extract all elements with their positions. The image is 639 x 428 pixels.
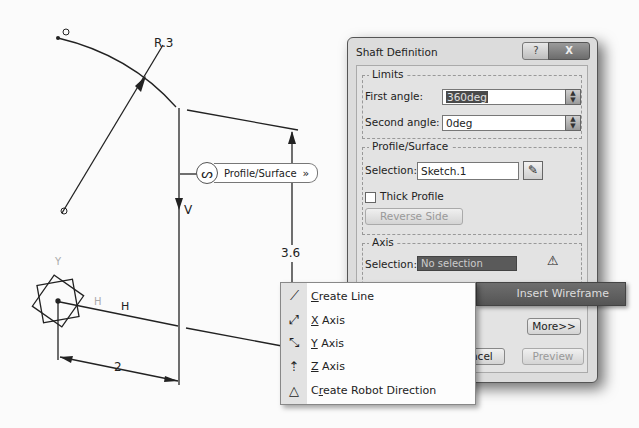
first-angle-spinner[interactable]: ▲▼ <box>565 89 581 105</box>
profile-surface-group: Profile/Surface Selection: Sketch.1 ✎ Th… <box>362 147 582 235</box>
second-angle-input[interactable]: 0deg <box>442 115 566 131</box>
insert-wireframe-toolbar[interactable]: Insert Wireframe <box>476 282 626 306</box>
second-angle-label: Second angle: <box>365 116 440 128</box>
preview-button[interactable]: Preview <box>522 348 584 365</box>
first-angle-label: First angle: <box>365 90 423 102</box>
axis-selection-input[interactable]: No selection <box>417 256 517 271</box>
profile-group-title: Profile/Surface <box>369 140 451 152</box>
menu-item-create-robot-direction[interactable]: △ Create Robot Direction <box>281 379 475 401</box>
reverse-side-button[interactable]: Reverse Side <box>365 208 463 225</box>
second-angle-spinner[interactable]: ▲▼ <box>565 115 581 131</box>
profile-surface-tag[interactable]: ᔕ Profile/Surface » <box>196 162 318 184</box>
radius-label: R.3 <box>154 36 173 50</box>
dim-vertical-label: 3.6 <box>281 246 300 260</box>
profile-selection-label: Selection: <box>365 164 417 176</box>
dialog-title: Shaft Definition <box>356 46 438 58</box>
h-line-right <box>186 328 282 346</box>
axis-selection-label: Selection: <box>365 258 417 270</box>
double-chevron-icon[interactable]: » <box>303 167 310 180</box>
limits-group-title: Limits <box>369 68 407 80</box>
axis-group-title: Axis <box>369 236 397 248</box>
profile-circle-icon: ᔕ <box>196 162 218 184</box>
profile-surface-label: Profile/Surface <box>224 168 297 179</box>
axis-y-label: Y <box>55 256 61 267</box>
pencil-icon: ✎ <box>528 163 538 177</box>
v-arrowhead <box>175 198 183 210</box>
x-axis-icon: ⤢ <box>281 312 307 328</box>
axis-context-menu: ⟋ Create Line ⤢ X Axis ⤡ Y Axis ⇡ Z Axis… <box>280 282 476 405</box>
warning-icon: ⚠ <box>547 253 559 268</box>
thick-profile-label: Thick Profile <box>380 190 444 202</box>
z-axis-icon: ⇡ <box>281 359 307 374</box>
sketch-edit-button[interactable]: ✎ <box>523 161 543 180</box>
dim-horizontal-label: 2 <box>114 360 122 374</box>
profile-selection-input[interactable]: Sketch.1 <box>417 162 519 180</box>
radius-dim-line <box>62 45 163 213</box>
dim-arrowhead-up <box>288 131 296 144</box>
line-icon: ⟋ <box>281 288 307 304</box>
dim-arrowhead-left <box>60 356 73 363</box>
top-sloped-line <box>187 110 298 130</box>
menu-item-y-axis[interactable]: ⤡ Y Axis <box>281 332 475 354</box>
menu-item-z-axis[interactable]: ⇡ Z Axis <box>281 355 475 377</box>
vertical-label: V <box>184 203 192 217</box>
y-axis-icon: ⤡ <box>281 335 307 351</box>
axis-h-label: H <box>94 296 102 307</box>
help-button[interactable]: ? <box>522 42 550 60</box>
robot-direction-icon: △ <box>281 383 307 398</box>
horizontal-label: H <box>121 300 129 313</box>
limits-group: Limits First angle: 360deg ▲▼ Second ang… <box>362 75 582 139</box>
menu-item-create-line[interactable]: ⟋ Create Line <box>281 285 475 307</box>
first-angle-input[interactable]: 360deg <box>442 89 566 105</box>
menu-item-x-axis[interactable]: ⤢ X Axis <box>281 309 475 331</box>
more-button[interactable]: More>> <box>527 318 581 335</box>
profile-surface-pill[interactable]: Profile/Surface » <box>214 163 318 183</box>
close-button[interactable]: X <box>548 42 590 60</box>
thick-profile-checkbox[interactable] <box>365 192 376 203</box>
dim-arrowhead-right <box>164 376 178 382</box>
